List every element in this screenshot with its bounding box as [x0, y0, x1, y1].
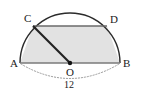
vertex-label-c: C [24, 13, 31, 24]
vertex-label-d: D [110, 14, 118, 25]
center-label-o: O [66, 67, 74, 78]
vertex-label-b: B [123, 58, 130, 69]
geometry-diagram: A B C D O 12 [0, 0, 141, 95]
center-point-o [68, 61, 72, 65]
vertex-label-a: A [10, 58, 18, 69]
shaded-region-acdb [20, 26, 120, 63]
dimension-label-12: 12 [64, 80, 74, 90]
